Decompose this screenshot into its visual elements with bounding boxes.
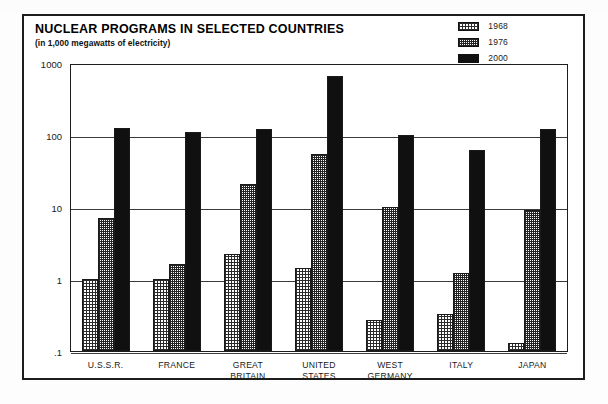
bar-2000 <box>256 129 272 351</box>
x-axis-category-label: FRANCE <box>141 356 212 390</box>
bar-1968 <box>508 343 524 351</box>
bar-2000 <box>540 129 556 351</box>
bar-1976 <box>453 273 469 351</box>
bar-1976 <box>311 154 327 351</box>
bar-group <box>425 65 496 351</box>
bar-1968 <box>82 279 98 351</box>
x-axis-category-label: U.S.S.R. <box>70 356 141 390</box>
x-axis-category-label: UNITEDSTATES <box>283 356 354 390</box>
figure-frame: NUCLEAR PROGRAMS IN SELECTED COUNTRIES (… <box>22 14 585 380</box>
bar-1976 <box>382 207 398 351</box>
legend-label: 1968 <box>488 21 508 31</box>
scan-bleed-artifact <box>0 0 608 11</box>
x-axis-category-label: GREATBRITAIN <box>212 356 283 390</box>
y-axis-tick-label: .1 <box>54 347 62 358</box>
y-axis-tick-label: 10 <box>51 203 62 214</box>
x-axis-category-label: ITALY <box>426 356 497 390</box>
bar-1968 <box>153 279 169 351</box>
plot-area <box>70 64 568 352</box>
bar-2000 <box>469 150 485 351</box>
bar-2000 <box>114 128 130 351</box>
bar-2000 <box>398 135 414 351</box>
bar-group <box>213 65 284 351</box>
bar-1976 <box>240 184 256 351</box>
solid-black-swatch-icon <box>458 54 479 63</box>
gridline <box>71 353 567 354</box>
bar-1968 <box>437 314 453 351</box>
legend-item-2000: 2000 <box>458 51 508 65</box>
legend-label: 1976 <box>488 37 508 47</box>
y-axis-tick-labels: 1000100101.1 <box>24 64 66 352</box>
bar-2000 <box>327 76 343 351</box>
bar-1976 <box>524 210 540 351</box>
medium-checker-swatch-icon <box>458 38 479 47</box>
y-axis-tick-label: 1 <box>57 275 62 286</box>
bar-groups <box>71 65 567 351</box>
bar-2000 <box>185 132 201 351</box>
bar-group <box>71 65 142 351</box>
legend-label: 2000 <box>488 53 508 63</box>
y-axis-tick-label: 100 <box>46 131 62 142</box>
x-axis-category-label: JAPAN <box>497 356 568 390</box>
bar-group <box>284 65 355 351</box>
bar-1968 <box>224 254 240 351</box>
bar-1976 <box>98 218 114 351</box>
legend-item-1968: 1968 <box>458 19 508 33</box>
chart-legend: 1968 1976 2000 <box>458 19 508 67</box>
page-title: NUCLEAR PROGRAMS IN SELECTED COUNTRIES <box>35 22 344 36</box>
bar-1968 <box>295 268 311 351</box>
chart-page: NUCLEAR PROGRAMS IN SELECTED COUNTRIES (… <box>0 0 608 404</box>
bar-group <box>142 65 213 351</box>
bar-1968 <box>366 320 382 351</box>
x-axis-category-labels: U.S.S.R.FRANCEGREATBRITAINUNITEDSTATESWE… <box>70 356 568 390</box>
bar-1976 <box>169 264 185 351</box>
bar-group <box>354 65 425 351</box>
legend-item-1976: 1976 <box>458 35 508 49</box>
chart-subtitle: (in 1,000 megawatts of electricity) <box>35 38 170 48</box>
light-checker-swatch-icon <box>458 22 479 31</box>
bar-group <box>496 65 567 351</box>
x-axis-category-label: WESTGERMANY <box>355 356 426 390</box>
y-axis-tick-label: 1000 <box>41 59 62 70</box>
